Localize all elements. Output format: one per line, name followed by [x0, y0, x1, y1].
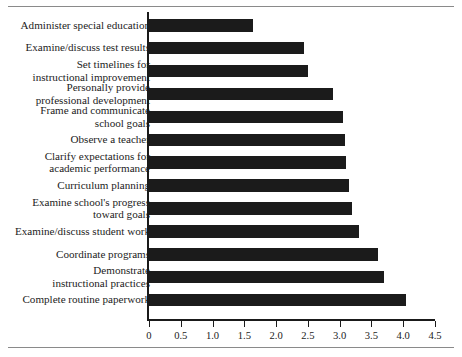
bar — [149, 19, 253, 32]
x-tick — [276, 321, 277, 327]
x-axis-line — [147, 319, 435, 321]
bar-chart-figure: Administer special educationExamine/disc… — [0, 0, 462, 357]
bar-row: Examine/discuss student work — [0, 224, 462, 247]
x-tick — [149, 321, 150, 327]
bar-rows-container: Administer special educationExamine/disc… — [0, 12, 462, 319]
bar-row: Demonstrate instructional practices — [0, 270, 462, 293]
bar — [149, 294, 406, 307]
bar — [149, 42, 304, 55]
x-tick — [181, 321, 182, 327]
y-axis-line — [147, 12, 149, 320]
bar — [149, 111, 343, 124]
bar — [149, 248, 378, 261]
category-label: Complete routine paperwork — [0, 293, 150, 305]
category-label: Demonstrate instructional practices — [0, 264, 150, 289]
bar-row: Examine school's progress toward goals — [0, 201, 462, 224]
category-label: Curriculum planning — [0, 179, 150, 191]
x-tick — [213, 321, 214, 327]
bar — [149, 179, 349, 192]
bar — [149, 65, 308, 78]
category-label: Frame and communicate school goals — [0, 104, 150, 129]
category-label: Administer special education — [0, 19, 150, 31]
x-tick — [308, 321, 309, 327]
bar-row: Administer special education — [0, 18, 462, 41]
bar — [149, 156, 346, 169]
x-tick-label: 4.5 — [415, 330, 455, 341]
x-tick — [371, 321, 372, 327]
bar-row: Frame and communicate school goals — [0, 110, 462, 133]
top-divider-rule — [8, 6, 454, 7]
bar — [149, 271, 384, 284]
category-label: Clarify expectations for academic perfor… — [0, 150, 150, 175]
bottom-divider-rule — [8, 347, 454, 348]
bar-row: Clarify expectations for academic perfor… — [0, 155, 462, 178]
bar — [149, 88, 333, 101]
x-tick — [244, 321, 245, 327]
bar — [149, 202, 352, 215]
x-tick — [403, 321, 404, 327]
bar — [149, 225, 359, 238]
x-tick — [340, 321, 341, 327]
bar — [149, 134, 345, 147]
bar-row: Complete routine paperwork — [0, 293, 462, 316]
category-label: Examine school's progress toward goals — [0, 196, 150, 221]
category-label: Examine/discuss student work — [0, 225, 150, 237]
category-label: Observe a teacher — [0, 133, 150, 145]
category-label: Personally provide professional developm… — [0, 81, 150, 106]
category-label: Set timelines for instructional improvem… — [0, 58, 150, 83]
category-label: Coordinate programs — [0, 248, 150, 260]
plot-area: Administer special educationExamine/disc… — [0, 12, 462, 334]
x-tick — [435, 321, 436, 327]
category-label: Examine/discuss test results — [0, 41, 150, 53]
